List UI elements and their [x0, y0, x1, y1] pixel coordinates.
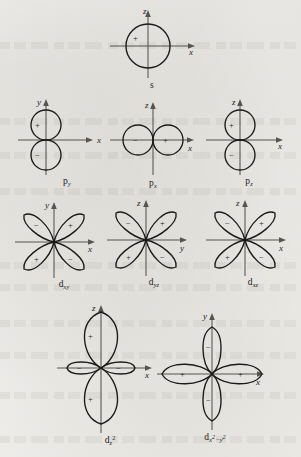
orbital-label-dxy: dxy: [12, 279, 112, 289]
upper-left-lobe: [24, 214, 54, 242]
lower-right-lobe-sign: −: [68, 254, 73, 264]
axis-y-arrowhead: [209, 313, 215, 320]
axis-label-x: x: [187, 143, 192, 153]
upper-right-lobe-sign: +: [160, 218, 165, 228]
axis-x-arrowhead: [187, 137, 194, 143]
orbital-diagram-dxz: − + + − z x dxz: [203, 197, 299, 289]
orbital-label-py: py: [16, 176, 114, 186]
axis-label-x: x: [144, 370, 149, 380]
axis-z-arrowhead: [98, 305, 104, 312]
orbital-svg-dx2y2: − − + + y x: [155, 310, 275, 432]
orbital-diagram-dyz: − + + − z y dyz: [104, 197, 200, 289]
left-lobe-sign: −: [133, 135, 138, 145]
orbital-figure-page: + z x s + − y x py − +: [0, 0, 301, 457]
orbital-label-dyz: dyz: [104, 277, 202, 287]
orbital-svg-pz: + − z x: [200, 96, 294, 176]
axis-z-arrowhead: [242, 200, 248, 207]
orbital-diagram-dx2y2: − − + + y x dx2−y2: [155, 310, 275, 452]
sphere-lobe-sign: +: [133, 33, 138, 43]
orbital-diagram-pz: + − z x pz: [200, 96, 294, 188]
axis-z-arrowhead: [150, 102, 156, 109]
orbital-svg-px: − + z x: [106, 100, 200, 176]
axis-label-y: y: [44, 200, 49, 210]
axis-label-y: y: [36, 97, 41, 107]
right-lobe-sign: +: [163, 135, 168, 145]
orbital-svg-s: + z x: [104, 8, 200, 80]
upper-left-lobe-sign: −: [126, 218, 131, 228]
upper-lobe-sign: +: [35, 120, 40, 130]
page-bleedthrough: [0, 188, 301, 195]
axis-label-x: x: [277, 141, 282, 151]
axis-z-arrowhead: [237, 99, 243, 106]
orbital-label-dz2: dz2: [55, 435, 165, 445]
orbital-svg-dxy: − + + − y x: [12, 199, 108, 279]
upper-right-lobe-sign: +: [68, 220, 73, 230]
lower-right-lobe-sign: −: [259, 252, 264, 262]
axis-label-y: y: [202, 311, 207, 321]
left-lobe-sign: +: [180, 369, 185, 379]
lower-left-lobe: [116, 240, 146, 268]
lower-left-lobe-sign: +: [225, 252, 230, 262]
upper-lobe-sign: +: [88, 331, 93, 341]
orbital-label-dxz: dxz: [203, 277, 301, 287]
upper-left-lobe: [116, 212, 146, 240]
axis-label-x: x: [188, 47, 193, 57]
axis-z-arrowhead: [143, 200, 149, 207]
orbital-diagram-py: + − y x py: [16, 96, 110, 188]
axis-label-x: x: [255, 377, 260, 387]
orbital-svg-py: + − y x: [16, 96, 110, 176]
axis-label-z: z: [144, 100, 149, 110]
orbital-svg-dxz: − + + − z x: [203, 197, 299, 277]
orbital-svg-dz2: + + − − z x: [55, 302, 165, 435]
upper-left-lobe: [215, 212, 245, 240]
lower-lobe-sign: −: [229, 150, 234, 160]
axis-y-arrowhead: [43, 99, 49, 106]
lower-right-lobe-sign: −: [160, 252, 165, 262]
orbital-label-s: s: [104, 80, 200, 90]
orbital-diagram-s: + z x s: [104, 8, 200, 90]
axis-y-arrowhead: [51, 202, 57, 209]
lower-lobe-sign: −: [206, 395, 211, 405]
axis-label-z: z: [142, 6, 147, 16]
upper-lobe-sign: −: [206, 342, 211, 352]
upper-lobe-sign: +: [229, 120, 234, 130]
orbital-diagram-dxy: − + + − y x dxy: [12, 199, 108, 291]
orbital-label-pz: pz: [200, 176, 296, 186]
orbital-label-px: px: [106, 178, 200, 188]
lower-left-lobe-sign: +: [126, 252, 131, 262]
axis-label-z: z: [91, 303, 96, 313]
label-sub-x: x2−y2: [209, 436, 226, 443]
axis-label-z: z: [231, 97, 236, 107]
axis-x-arrowhead: [86, 137, 93, 143]
lower-left-lobe-sign: +: [34, 254, 39, 264]
axis-label-x: x: [87, 244, 92, 254]
lower-lobe-sign: −: [35, 150, 40, 160]
axis-label-x: x: [96, 135, 101, 145]
orbital-diagram-px: − + z x px: [106, 100, 200, 188]
orbital-label-dx2y2: dx2−y2: [155, 432, 275, 442]
upper-left-lobe-sign: −: [34, 220, 39, 230]
upper-left-lobe-sign: −: [225, 218, 230, 228]
axis-y-arrowhead: [180, 237, 187, 243]
left-torus-lobe-sign: −: [77, 363, 82, 373]
lower-left-lobe: [24, 242, 54, 270]
right-torus-lobe-sign: −: [116, 363, 121, 373]
axis-x-arrowhead: [279, 237, 286, 243]
upper-right-lobe-sign: +: [259, 218, 264, 228]
axis-label-z: z: [136, 198, 141, 208]
orbital-svg-dyz: − + + − z y: [104, 197, 200, 277]
axis-label-z: z: [235, 198, 240, 208]
axis-label-y: y: [179, 243, 184, 253]
right-lobe-sign: +: [238, 369, 243, 379]
axis-label-x: x: [278, 243, 283, 253]
orbital-diagram-dz2: + + − − z x dz2: [55, 302, 165, 452]
lower-lobe-sign: +: [88, 394, 93, 404]
lower-left-lobe: [215, 240, 245, 268]
